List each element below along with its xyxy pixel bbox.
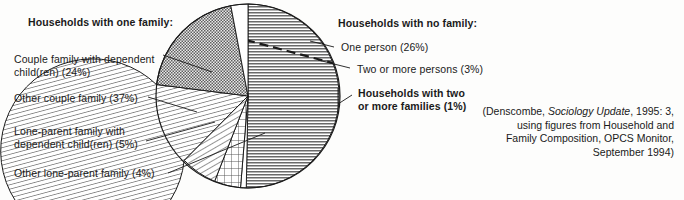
label-other-lone-parent: Other lone-parent family (4%) [14,167,155,180]
citation-line2: using figures from Household and [517,119,674,131]
label-other-couple-family: Other couple family (37%) [14,92,138,105]
citation-part2: , 1995: 3, [630,105,674,117]
slice-one-person[interactable] [246,4,339,188]
label-lone-parent-dependent: Lone-parent family with dependent child(… [14,125,138,151]
pie-chart-figure: Households with one family: Couple famil… [0,0,684,200]
citation-part1: (Denscombe, [483,105,548,117]
citation-italic-title: Sociology Update [548,105,630,117]
heading-one-family: Households with one family: [28,16,173,29]
label-couple-family-dependent: Couple family with dependent child(ren) … [14,53,155,79]
label-two-or-more-persons: Two or more persons (3%) [357,63,483,76]
label-one-person: One person (26%) [341,41,428,54]
heading-no-family: Households with no family: [338,17,477,30]
citation-line4: September 1994) [593,146,674,158]
source-citation: (Denscombe, Sociology Update, 1995: 3, u… [426,105,674,159]
citation-line3: Family Composition, OPCS Monitor, [506,132,674,144]
